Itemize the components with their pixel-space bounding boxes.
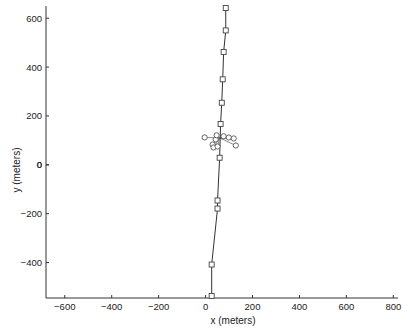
x-tick-label: −400: [101, 301, 122, 312]
y-tick-label: 400: [26, 62, 42, 73]
circle-marker: [215, 144, 220, 149]
square-marker: [217, 155, 222, 160]
y-tick-label: −200: [21, 208, 42, 219]
y-tick-label: 600: [26, 13, 42, 24]
square-marker: [223, 5, 228, 10]
x-tick-label: 200: [245, 301, 261, 312]
x-tick-label: −600: [54, 301, 75, 312]
y-tick-label: 0: [37, 159, 42, 170]
circle-marker: [231, 136, 236, 141]
y-tick-label: −400: [21, 257, 42, 268]
circle-marker: [221, 134, 226, 139]
x-tick-label: 0: [203, 301, 208, 312]
circle-marker: [226, 135, 231, 140]
square-marker: [220, 77, 225, 82]
series-lines: [205, 8, 236, 296]
square-marker: [221, 49, 226, 54]
x-tick-label: 800: [385, 301, 401, 312]
square-marker: [215, 206, 220, 211]
square-marker: [219, 100, 224, 105]
square-marker: [223, 28, 228, 33]
circle-marker: [233, 143, 238, 148]
x-tick-label: 400: [292, 301, 308, 312]
square-marker: [209, 262, 214, 267]
x-tick-label: 600: [338, 301, 354, 312]
square-marker: [215, 198, 220, 203]
y-axis-label: y (meters): [11, 148, 22, 193]
y-tick-label: 200: [26, 110, 42, 121]
circle-marker: [202, 135, 207, 140]
x-tick-label: −200: [148, 301, 169, 312]
square-marker: [218, 122, 223, 127]
x-axis-label: x (meters): [211, 315, 256, 326]
square-marker: [209, 294, 214, 299]
circle-marker: [214, 133, 219, 138]
trajectory-plot: −600−400−2000200400600800−400−2000200400…: [0, 0, 410, 334]
